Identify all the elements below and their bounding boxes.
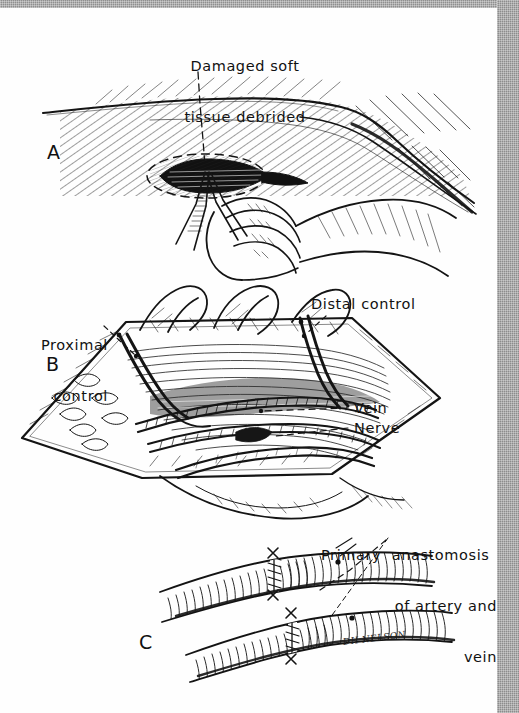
panel-letter-c: C	[139, 633, 152, 652]
scan-edge-top	[0, 0, 519, 8]
panel-letter-a: A	[47, 143, 60, 162]
panel-c-caption: Primary anastomosis of artery and vein	[321, 513, 497, 700]
panel-a-caption: Damaged soft tissue debrided	[155, 24, 335, 160]
label-vein: Vein	[354, 400, 387, 417]
illustration-page: Damaged soft tissue debrided A Proximal …	[0, 0, 519, 713]
panel-c-caption-line-2: of artery and	[321, 598, 497, 615]
label-proximal-control-line-1: Proximal	[4, 337, 108, 354]
panel-c-caption-line-3: vein	[321, 649, 497, 666]
panel-a-caption-line-2: tissue debrided	[155, 109, 335, 126]
panel-letter-b: B	[46, 355, 59, 374]
panel-a-caption-line-1: Damaged soft	[155, 58, 335, 75]
label-nerve: Nerve	[354, 420, 400, 437]
label-proximal-control-line-2: control	[4, 388, 108, 405]
panel-c-caption-line-1: Primary anastomosis	[321, 547, 497, 564]
label-distal-control: Distal control	[311, 296, 416, 313]
scan-edge-right	[497, 0, 519, 713]
